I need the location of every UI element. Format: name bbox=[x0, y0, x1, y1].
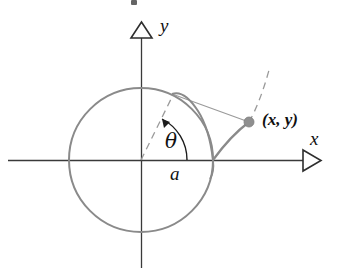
tangent-string-line bbox=[172, 94, 249, 122]
involute-figure: y x θ a (x, y) bbox=[0, 0, 340, 277]
x-axis-arrowhead-icon bbox=[303, 150, 321, 171]
involute-outer-arc bbox=[213, 122, 249, 160]
point-coordinates-label: (x, y) bbox=[262, 111, 298, 128]
point-marker-dot bbox=[244, 117, 254, 127]
involute-curve bbox=[172, 93, 213, 160]
radius-a-label: a bbox=[170, 164, 180, 183]
angle-theta-label: θ bbox=[165, 131, 177, 151]
y-axis-label: y bbox=[160, 16, 168, 35]
x-axis-label: x bbox=[310, 129, 318, 148]
y-axis-arrowhead-icon bbox=[131, 22, 152, 38]
